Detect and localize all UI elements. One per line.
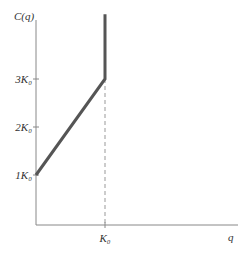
- cost-curve-line: [36, 14, 105, 175]
- y-tick-label: 2K₀: [15, 121, 32, 133]
- y-tick-label: 3K₀: [14, 73, 32, 85]
- x-axis-label: q: [228, 231, 234, 243]
- x-tick-label: K₀: [98, 232, 110, 244]
- y-tick-label: 1K₀: [15, 169, 32, 181]
- chart: C(q) q 1K₀2K₀3K₀ K₀: [0, 0, 250, 262]
- y-axis-label: C(q): [14, 10, 35, 23]
